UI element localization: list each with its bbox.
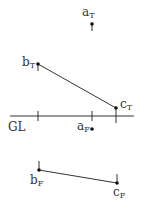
ground-line-label: GL [8,120,26,134]
label-a-front: aF [77,119,90,134]
front-view-line-bc [39,170,117,183]
top-view-line-bc [38,64,116,108]
label-a-top: aT [82,5,95,20]
point-b-front [37,168,41,172]
point-b-top [36,62,40,66]
label-b-top: bT [22,55,36,70]
label-b-front: bF [30,173,44,188]
point-c-top [114,106,118,110]
point-a-front [90,127,94,131]
label-c-top: cT [120,97,133,112]
point-a-top [90,22,94,26]
label-c-front: cF [113,185,126,200]
projection-diagram: aT bT cT GL aF bF cF [0,0,145,203]
